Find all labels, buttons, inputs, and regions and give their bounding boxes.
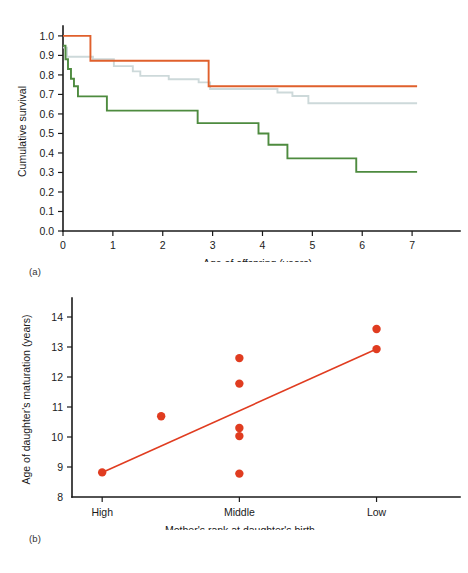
survival-chart-svg: 0.00.10.20.30.40.50.60.70.80.91.00123456… bbox=[0, 0, 468, 262]
x-tick-label: 6 bbox=[359, 239, 365, 251]
x-tick-label: Low bbox=[367, 506, 387, 518]
panel-a: 0.00.10.20.30.40.50.60.70.80.91.00123456… bbox=[0, 0, 468, 290]
scatter-point bbox=[235, 432, 243, 440]
x-axis-title: Mother's rank at daughter's birth bbox=[165, 524, 315, 530]
x-tick-label: Middle bbox=[224, 506, 255, 518]
scatter-point bbox=[235, 424, 243, 432]
y-tick-label: 14 bbox=[51, 311, 63, 323]
scatter-point bbox=[235, 354, 243, 362]
scatter-point bbox=[98, 468, 106, 476]
survival-chart: 0.00.10.20.30.40.50.60.70.80.91.00123456… bbox=[0, 0, 468, 262]
x-tick-label: 1 bbox=[110, 239, 116, 251]
y-tick-label: 11 bbox=[52, 401, 63, 413]
survival-curve-high-rank bbox=[63, 36, 417, 86]
maturation-chart-svg: 891011121314HighMiddleLowMother's rank a… bbox=[0, 280, 468, 530]
survival-curve-low-rank bbox=[63, 46, 417, 172]
scatter-point bbox=[372, 345, 380, 353]
x-tick-label: 3 bbox=[210, 239, 216, 251]
regression-line bbox=[102, 349, 376, 472]
y-tick-label: 1.0 bbox=[39, 30, 54, 42]
x-axis-title: Age of offspring (years) bbox=[203, 257, 312, 262]
y-tick-label: 10 bbox=[51, 431, 63, 443]
y-tick-label: 0.8 bbox=[39, 69, 54, 81]
y-tick-label: 0.7 bbox=[39, 88, 54, 100]
maturation-chart: 891011121314HighMiddleLowMother's rank a… bbox=[0, 280, 468, 530]
scatter-point bbox=[372, 325, 380, 333]
panel-b-label: (b) bbox=[29, 533, 41, 544]
y-tick-label: 8 bbox=[57, 491, 63, 503]
panel-a-label: (a) bbox=[29, 266, 41, 277]
scatter-point bbox=[157, 412, 165, 420]
scatter-point bbox=[235, 379, 243, 387]
y-tick-label: 0.5 bbox=[39, 127, 54, 139]
y-tick-label: 9 bbox=[57, 461, 63, 473]
y-tick-label: 0.9 bbox=[39, 49, 54, 61]
y-tick-label: 12 bbox=[51, 371, 63, 383]
x-tick-label: 7 bbox=[409, 239, 415, 251]
x-tick-label: 5 bbox=[309, 239, 315, 251]
figure-root: 0.00.10.20.30.40.50.60.70.80.91.00123456… bbox=[0, 0, 468, 573]
survival-curve-middle-rank bbox=[63, 48, 417, 104]
y-axis-title: Cumulative survival bbox=[16, 86, 28, 177]
x-tick-label: 4 bbox=[260, 239, 266, 251]
y-tick-label: 0.3 bbox=[39, 166, 54, 178]
x-tick-label: High bbox=[91, 506, 113, 518]
y-tick-label: 0.6 bbox=[39, 108, 54, 120]
y-axis-title: Age of daughter's maturation (years) bbox=[20, 314, 32, 484]
y-tick-label: 0.2 bbox=[39, 186, 54, 198]
panel-b: 891011121314HighMiddleLowMother's rank a… bbox=[0, 280, 468, 573]
x-tick-label: 2 bbox=[160, 239, 166, 251]
x-tick-label: 0 bbox=[60, 239, 66, 251]
y-tick-label: 13 bbox=[51, 341, 63, 353]
y-tick-label: 0.0 bbox=[39, 225, 54, 237]
y-tick-label: 0.4 bbox=[39, 147, 54, 159]
scatter-point bbox=[235, 469, 243, 477]
y-tick-label: 0.1 bbox=[39, 205, 54, 217]
